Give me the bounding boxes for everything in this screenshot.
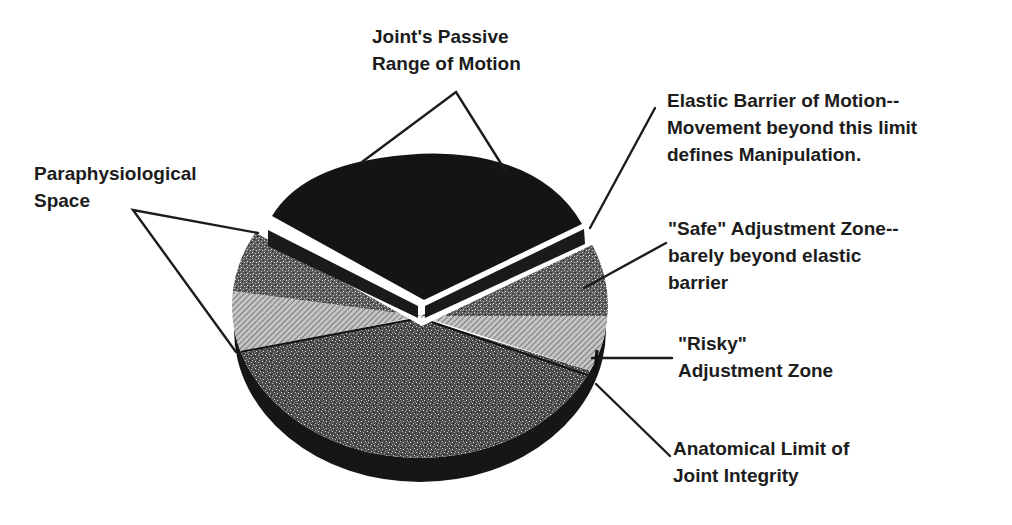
label-passive-range: Joint's Passive Range of Motion [372,23,521,77]
leader-anatomical-limit [596,384,670,456]
label-anatomical-limit-line2: Joint Integrity [673,462,849,489]
label-safe-zone: "Safe" Adjustment Zone-- barely beyond e… [668,215,899,296]
label-anatomical-limit: Anatomical Limit of Joint Integrity [673,435,849,489]
label-anatomical-limit-line1: Anatomical Limit of [673,435,849,462]
label-paraphysiological-line2: Space [34,187,197,214]
label-elastic-barrier-line3: defines Manipulation. [667,141,917,168]
leader-elastic-barrier [590,108,655,228]
label-passive-range-line1: Joint's Passive [372,23,521,50]
label-safe-zone-line1: "Safe" Adjustment Zone-- [668,215,899,242]
label-risky-zone-line2: Adjustment Zone [678,357,833,384]
label-passive-range-line2: Range of Motion [372,50,521,77]
label-elastic-barrier: Elastic Barrier of Motion-- Movement bey… [667,87,917,168]
label-elastic-barrier-line1: Elastic Barrier of Motion-- [667,87,917,114]
label-risky-zone: "Risky" Adjustment Zone [678,330,833,384]
label-paraphysiological-line1: Paraphysiological [34,160,197,187]
label-paraphysiological: Paraphysiological Space [34,160,197,214]
risky-edge-marker [595,350,597,372]
label-elastic-barrier-line2: Movement beyond this limit [667,114,917,141]
label-risky-zone-line1: "Risky" [678,330,833,357]
label-safe-zone-line3: barrier [668,269,899,296]
label-safe-zone-line2: barely beyond elastic [668,242,899,269]
